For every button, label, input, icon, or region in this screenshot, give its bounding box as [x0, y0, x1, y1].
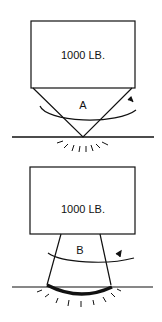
weight-label-b: 1000 LB. [61, 203, 105, 215]
label-a: A [79, 99, 87, 111]
contact-surface-b [47, 285, 112, 294]
flat-contact-b [47, 234, 111, 285]
arrowhead-icon [128, 97, 133, 102]
diagram: 1000 LB. A 1000 LB. B [0, 0, 162, 322]
rotation-arrow-icon-b [48, 253, 134, 262]
arrowhead-icon-b [116, 251, 121, 257]
pressure-marks-b [37, 289, 121, 307]
figure-a [12, 21, 154, 152]
rotation-arrow-icon [40, 106, 136, 120]
weight-block-b [30, 167, 135, 234]
weight-label-a: 1000 LB. [61, 49, 105, 61]
figure-b [12, 167, 153, 307]
pressure-marks-a [57, 141, 108, 152]
label-b: B [76, 244, 83, 256]
